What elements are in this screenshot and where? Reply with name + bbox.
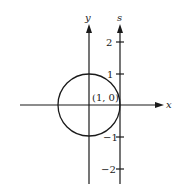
s-tick-label-neg1: −1 bbox=[103, 132, 118, 143]
point-label: (1, 0) bbox=[92, 92, 119, 103]
y-axis-label: y bbox=[84, 12, 91, 23]
s-tick-label-2: 2 bbox=[106, 37, 112, 48]
s-tick-label-neg2: −2 bbox=[101, 164, 116, 175]
unit-circle-diagram: x y s 2 1 −1 −2 (1, 0) bbox=[0, 0, 175, 194]
s-axis-arrow-icon bbox=[117, 24, 123, 33]
y-axis bbox=[86, 24, 92, 184]
x-axis-arrow-icon bbox=[155, 102, 164, 108]
s-axis-label: s bbox=[117, 12, 122, 23]
s-tick-label-1: 1 bbox=[107, 69, 113, 80]
x-axis-label: x bbox=[166, 99, 172, 110]
y-axis-arrow-icon bbox=[86, 24, 92, 33]
